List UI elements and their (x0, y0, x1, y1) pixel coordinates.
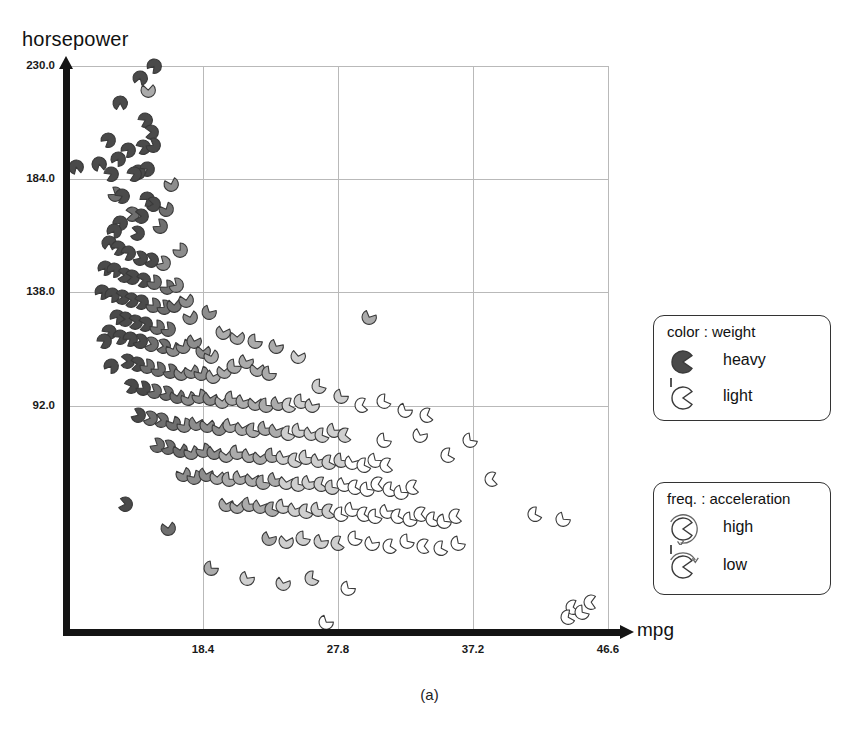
data-point-marker (336, 426, 354, 448)
x-axis-arrowhead-icon (620, 625, 634, 639)
y-axis-tick-label: 184.0 (26, 172, 55, 184)
data-point-marker (119, 141, 137, 163)
data-point-marker (162, 175, 180, 197)
data-point-marker (277, 532, 295, 554)
legend-freq-acceleration-title: freq. : acceleration (667, 490, 790, 507)
data-point-marker (159, 519, 177, 541)
data-point-marker (260, 529, 278, 551)
data-point-marker (116, 495, 134, 517)
legend-item-light-label: light (723, 387, 752, 405)
y-axis-tick-label: 230.0 (26, 59, 55, 71)
legend-item-heavy-label: heavy (723, 351, 766, 369)
data-point-marker (360, 308, 378, 330)
data-point-marker (125, 165, 143, 187)
data-point-marker (582, 593, 600, 615)
data-point-marker (375, 431, 393, 453)
y-axis-tick-label: 138.0 (26, 285, 55, 297)
data-point-marker (294, 529, 312, 551)
data-point-marker (432, 539, 450, 561)
data-point-marker (274, 574, 292, 596)
data-point-marker (312, 532, 330, 554)
data-point-marker (260, 364, 278, 386)
data-point-marker (332, 387, 350, 409)
data-point-marker (398, 532, 416, 554)
legend-item-high-label: high (723, 518, 753, 536)
data-point-marker (439, 446, 457, 468)
data-point-marker (483, 470, 501, 492)
data-point-marker (559, 608, 577, 630)
data-point-marker (267, 337, 285, 359)
x-axis-tick-label: 27.8 (327, 643, 349, 655)
data-point-marker (202, 559, 220, 581)
data-point-marker (303, 569, 321, 591)
legend-color-weight-title: color : weight (667, 323, 755, 340)
data-point-marker (171, 241, 189, 263)
data-point-marker (404, 478, 422, 500)
x-axis-tick-label: 37.2 (462, 643, 484, 655)
data-point-marker (310, 377, 328, 399)
gridline-vertical (608, 66, 609, 632)
data-point-marker (363, 534, 381, 556)
data-point-marker (157, 200, 175, 222)
data-point-marker (554, 510, 572, 532)
data-point-marker (144, 136, 162, 158)
pacman-filled-dark-icon (667, 346, 699, 378)
data-point-marker (396, 401, 414, 423)
x-axis-tick-label: 18.4 (192, 643, 214, 655)
data-point-marker (102, 357, 120, 379)
data-point-marker (181, 308, 199, 330)
pacman-outline-white-icon (667, 382, 699, 414)
data-point-marker (238, 569, 256, 591)
pacman-arc-full-icon (667, 513, 699, 545)
legend-color-weight: color : weight heavy light (653, 315, 831, 421)
data-point-marker (346, 529, 364, 551)
data-point-marker (145, 57, 163, 79)
data-point-marker (411, 426, 429, 448)
data-point-marker (67, 158, 85, 180)
data-point-marker (415, 537, 433, 559)
data-point-marker (418, 406, 436, 428)
gridline-vertical (473, 66, 474, 632)
data-point-marker (461, 431, 479, 453)
legend-freq-acceleration: freq. : acceleration high low (653, 482, 831, 595)
figure-caption: (a) (0, 686, 859, 703)
data-point-marker (289, 347, 307, 369)
x-axis-line (63, 629, 626, 636)
data-point-marker (329, 534, 347, 556)
data-point-marker (381, 537, 399, 559)
data-point-marker (526, 505, 544, 527)
plot-area (68, 66, 608, 632)
y-axis-line (63, 66, 70, 636)
data-point-marker (111, 94, 129, 116)
legend-item-low-label: low (723, 556, 747, 574)
x-axis-tick-label: 46.6 (597, 643, 619, 655)
data-point-marker (449, 534, 467, 556)
data-point-marker (303, 396, 321, 418)
data-point-marker (228, 328, 246, 350)
data-point-marker (447, 507, 465, 529)
data-point-marker (353, 396, 371, 418)
data-point-marker (375, 392, 393, 414)
y-axis-ticks: 92.0138.0184.0230.0 (0, 0, 62, 729)
data-point-marker (95, 332, 113, 354)
data-point-marker (246, 332, 264, 354)
x-axis-title: mpg (637, 619, 674, 641)
y-axis-tick-label: 92.0 (33, 399, 55, 411)
data-point-marker (139, 81, 157, 103)
data-point-marker (339, 579, 357, 601)
pacman-arc-short-icon (667, 551, 699, 583)
